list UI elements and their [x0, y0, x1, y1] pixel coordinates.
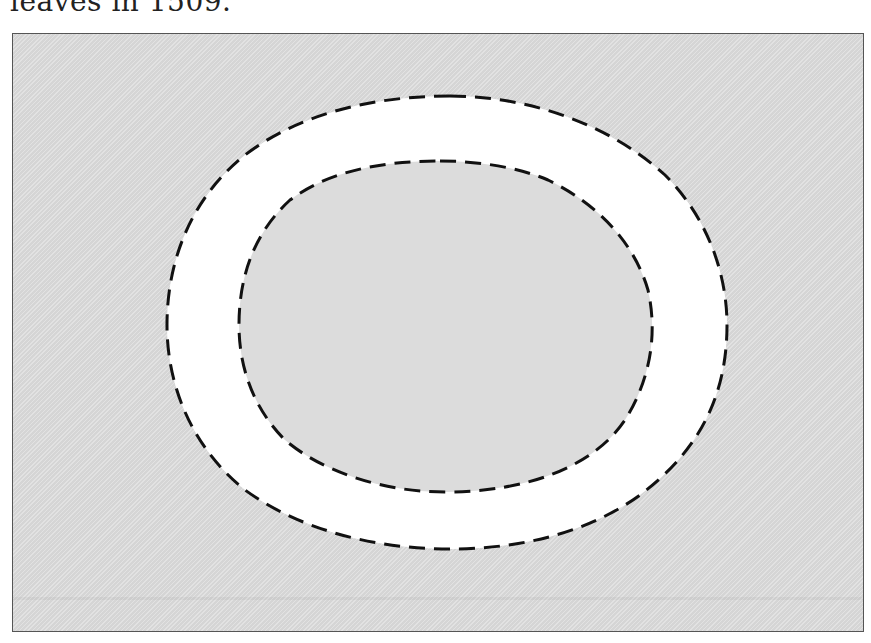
ring-diagram: [0, 0, 871, 643]
inner-boundary-shape: [239, 161, 652, 492]
